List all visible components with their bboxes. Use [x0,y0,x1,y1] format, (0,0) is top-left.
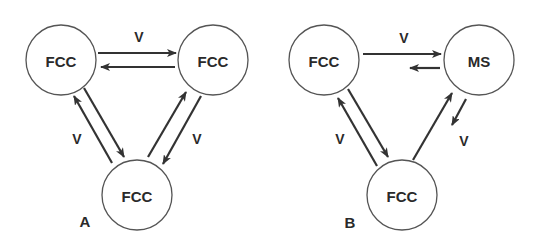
arrow-b2-to-b3 [452,99,466,125]
node-a1-label: FCC [46,53,77,70]
node-a3-label: FCC [122,188,153,205]
arrow-b3-to-b2 [413,93,452,160]
node-b2-label: MS [468,53,491,70]
panel-b-label: B [345,214,356,231]
node-a1: FCC [26,25,96,95]
edge-label-b1-b3: V [335,131,345,147]
node-a2-label: FCC [198,53,229,70]
diagram-canvas: FCC FCC FCC V V V A FCC MS [0,0,538,244]
node-b2: MS [444,25,514,95]
edge-label-a2-a3: V [192,131,202,147]
edge-label-a1-a3: V [72,131,82,147]
node-a3: FCC [102,160,172,230]
panel-a-label: A [80,213,91,230]
arrow-a2-to-a3 [163,96,201,164]
node-a2: FCC [178,25,248,95]
panel-a: FCC FCC FCC V V V A [26,25,248,230]
arrow-a3-to-a1 [74,96,112,163]
edge-label-b1-b2: V [399,30,409,46]
edge-label-b2-b3: V [459,133,469,149]
panel-b: FCC MS FCC V V V B [289,25,514,231]
node-b3: FCC [367,160,437,230]
arrow-b1-to-b3 [348,89,388,157]
edge-label-a1-a2: V [134,29,144,45]
arrow-a3-to-a2 [148,92,186,157]
node-b1-label: FCC [309,53,340,70]
node-b1: FCC [289,25,359,95]
node-b3-label: FCC [387,188,418,205]
